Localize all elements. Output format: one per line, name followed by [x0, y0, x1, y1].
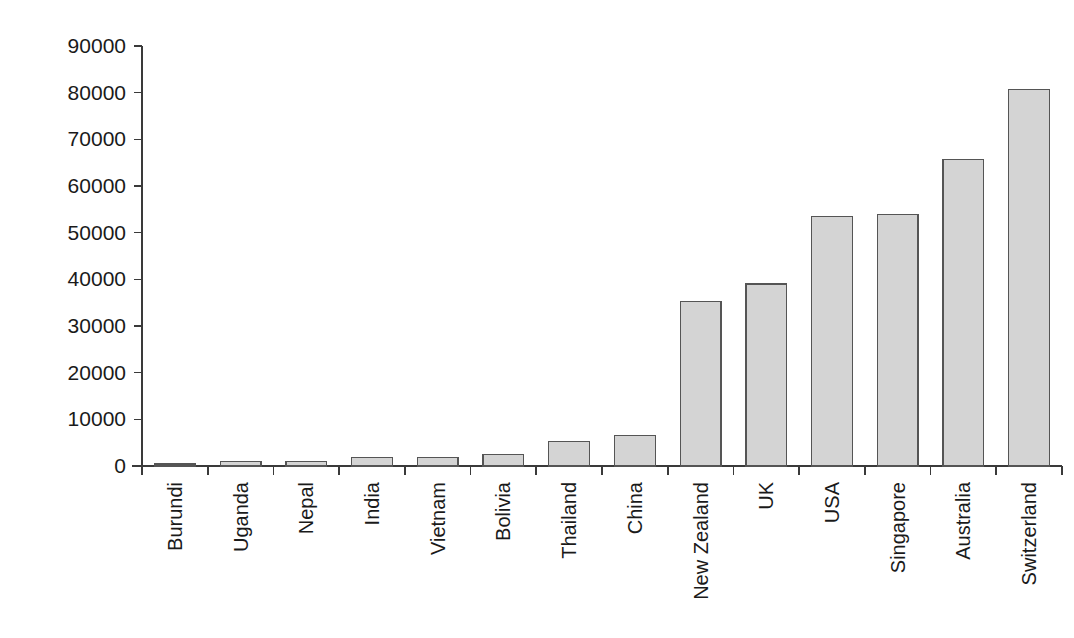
bar [549, 441, 590, 466]
bar [286, 462, 327, 466]
bar [154, 464, 195, 466]
bar-chart: 0100002000030000400005000060000700008000… [0, 0, 1074, 638]
x-axis-category-label: Nepal [295, 482, 317, 534]
x-axis-category-label: UK [755, 481, 777, 509]
x-axis-category-label: Singapore [887, 482, 909, 573]
x-axis-category-label: Burundi [164, 482, 186, 551]
chart-canvas: 0100002000030000400005000060000700008000… [0, 0, 1074, 638]
x-axis-category-label: Australia [952, 481, 974, 560]
y-axis-tick-label: 40000 [68, 267, 126, 290]
bar [483, 454, 524, 466]
x-axis-category-label: USA [821, 481, 843, 523]
bar [943, 159, 984, 466]
bar [352, 458, 393, 466]
bar [680, 302, 721, 466]
bar [1009, 89, 1050, 466]
bar [220, 462, 261, 466]
bar [614, 436, 655, 466]
x-axis-category-label: New Zealand [690, 482, 712, 600]
bar-series [154, 89, 1049, 466]
x-axis-category-label: Uganda [230, 481, 252, 552]
x-axis-category-label: China [624, 481, 646, 534]
x-axis [132, 466, 1062, 475]
bar [746, 284, 787, 466]
bar [417, 458, 458, 466]
y-axis-tick-label: 30000 [68, 314, 126, 337]
x-axis-category-label: Thailand [558, 482, 580, 559]
category-axis-labels: BurundiUgandaNepalIndiaVietnamBoliviaTha… [164, 481, 1040, 600]
y-axis-tick-label: 70000 [68, 127, 126, 150]
y-axis-tick-label: 20000 [68, 361, 126, 384]
bar [877, 214, 918, 466]
y-axis-tick-label: 90000 [68, 34, 126, 57]
y-axis-tick-label: 50000 [68, 221, 126, 244]
y-axis: 0100002000030000400005000060000700008000… [68, 34, 142, 477]
x-axis-category-label: India [361, 481, 383, 525]
y-axis-tick-label: 0 [114, 454, 126, 477]
x-axis-category-label: Bolivia [492, 481, 514, 541]
y-axis-tick-label: 10000 [68, 407, 126, 430]
y-axis-tick-label: 80000 [68, 81, 126, 104]
bar [812, 216, 853, 466]
x-axis-category-label: Vietnam [427, 482, 449, 555]
y-axis-tick-label: 60000 [68, 174, 126, 197]
x-axis-category-label: Switzerland [1018, 482, 1040, 585]
